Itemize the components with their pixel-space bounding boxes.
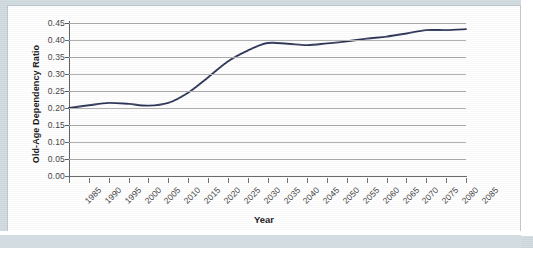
gridline [69,91,466,92]
x-tick-label: 1990 [103,185,124,206]
y-tick-mark [65,40,69,41]
y-tick-label: 0.25 [48,86,65,96]
x-tick-mark [129,178,130,183]
x-tick-label: 2010 [182,185,203,206]
x-tick-mark [287,178,288,183]
paper-margin-right [521,0,533,236]
x-tick-label: 2030 [261,185,282,206]
x-tick-mark [466,178,467,183]
x-tick-mark [347,178,348,183]
figure-card: Old-Age Dependency Ratio 0.000.050.100.1… [7,5,521,233]
x-axis-tick-labels: 1985199019952000200520102015202020252030… [69,178,469,218]
gridline [69,40,466,41]
x-tick-mark [387,178,388,183]
x-tick-label: 2060 [380,185,401,206]
x-tick-mark [109,178,110,183]
gridline [69,125,466,126]
x-tick-label: 2025 [241,185,262,206]
x-tick-mark [406,178,407,183]
x-tick-mark [248,178,249,183]
y-tick-label: 0.15 [48,120,65,130]
x-axis-line [69,176,467,177]
x-tick-mark [168,178,169,183]
y-tick-label: 0.40 [48,35,65,45]
x-tick-mark [307,178,308,183]
x-tick-mark [228,178,229,183]
y-tick-mark [65,125,69,126]
x-axis-title: Year [8,214,520,225]
x-tick-label: 2020 [222,185,243,206]
gridline [69,142,466,143]
y-tick-mark [65,74,69,75]
x-tick-mark [208,178,209,183]
x-tick-mark [148,178,149,183]
x-tick-mark [327,178,328,183]
line-chart: Old-Age Dependency Ratio 0.000.050.100.1… [8,6,520,232]
x-tick-mark [69,178,70,183]
x-tick-label: 2015 [202,185,223,206]
x-tick-mark [367,178,368,183]
y-tick-label: 0.30 [48,69,65,79]
x-tick-label: 2080 [460,185,481,206]
y-tick-label: 0.35 [48,52,65,62]
y-tick-label: 0.00 [48,171,65,181]
scan-band-bottom [0,235,521,248]
x-tick-label: 2045 [321,185,342,206]
x-tick-label: 1995 [122,185,143,206]
gridline [69,57,466,58]
x-tick-label: 2065 [400,185,421,206]
x-tick-label: 2035 [281,185,302,206]
y-tick-mark [65,176,69,177]
x-tick-label: 2070 [420,185,441,206]
x-tick-mark [446,178,447,183]
paper-edge-bottom [0,248,533,255]
x-tick-label: 2005 [162,185,183,206]
gridline [69,23,466,24]
y-tick-label: 0.45 [48,18,65,28]
x-tick-label: 2050 [341,185,362,206]
y-tick-mark [65,23,69,24]
x-tick-mark [188,178,189,183]
x-tick-mark [89,178,90,183]
x-tick-label: 2000 [142,185,163,206]
y-axis-tick-labels: 0.000.050.100.150.200.250.300.350.400.45 [22,23,65,176]
gridline [69,159,466,160]
gridline [69,108,466,109]
y-tick-label: 0.05 [48,154,65,164]
gridline [69,74,466,75]
plot-area [69,23,466,176]
y-tick-label: 0.20 [48,103,65,113]
x-tick-mark [426,178,427,183]
y-tick-mark [65,57,69,58]
x-tick-label: 1985 [83,185,104,206]
x-tick-label: 2040 [301,185,322,206]
x-tick-label: 2085 [480,185,501,206]
y-tick-mark [65,159,69,160]
y-tick-mark [65,108,69,109]
x-tick-mark [268,178,269,183]
y-tick-mark [65,142,69,143]
scanned-page-background: Old-Age Dependency Ratio 0.000.050.100.1… [0,0,533,255]
y-tick-mark [65,91,69,92]
x-tick-label: 2055 [361,185,382,206]
data-series-line [69,23,466,176]
x-tick-label: 2075 [440,185,461,206]
y-tick-label: 0.10 [48,137,65,147]
